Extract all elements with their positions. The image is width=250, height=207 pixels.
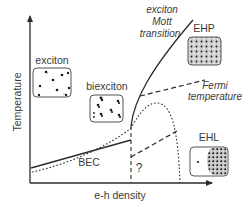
- exciton-label: exciton: [35, 54, 68, 66]
- x-axis-label: e-h density: [94, 189, 146, 201]
- biexciton-label: biexciton: [86, 80, 128, 92]
- svg-text:transition: transition: [140, 28, 181, 39]
- phase-diagram: Temperature e-h density exciton biexcito…: [0, 0, 250, 207]
- ehl-phase-box: EHL: [190, 131, 228, 176]
- fermi-temperature-annotation: Fermi temperature: [188, 80, 242, 102]
- bec-label: BEC: [78, 156, 100, 168]
- svg-text:Fermi: Fermi: [202, 80, 228, 91]
- svg-text:Mott: Mott: [152, 16, 173, 27]
- unknown-region-label: ?: [136, 161, 143, 175]
- lower-dashed-line: [131, 131, 177, 157]
- y-axis-label: Temperature: [11, 72, 23, 131]
- ehp-label: EHP: [193, 22, 215, 34]
- svg-text:exciton: exciton: [146, 4, 178, 15]
- svg-text:temperature: temperature: [188, 91, 242, 102]
- mott-transition-annotation: exciton Mott transition: [140, 4, 181, 39]
- biexciton-phase-box: biexciton: [86, 80, 128, 122]
- exciton-phase-box: exciton: [33, 54, 71, 97]
- ehl-label: EHL: [199, 131, 220, 143]
- ehp-phase-box: EHP: [188, 22, 221, 65]
